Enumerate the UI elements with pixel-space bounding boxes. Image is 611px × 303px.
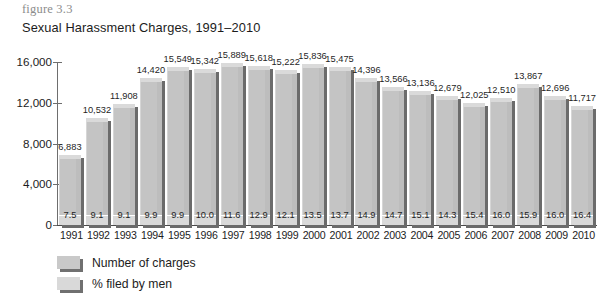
- x-tick-label: 2000: [301, 227, 328, 243]
- bar-charges[interactable]: 15.4: [463, 103, 485, 226]
- x-tick-label: 2007: [489, 227, 516, 243]
- legend-item[interactable]: Number of charges: [57, 253, 317, 272]
- x-tick-label: 1996: [193, 227, 220, 243]
- bar-slot: 11.615,889: [220, 62, 247, 225]
- chart-title: Sexual Harassment Charges, 1991–2010: [22, 20, 260, 35]
- x-tick-label: 1993: [112, 227, 139, 243]
- bar-column[interactable]: 13.715,475: [329, 67, 351, 225]
- bar-charges[interactable]: 9.1: [86, 118, 108, 225]
- bar-slot: 9.915,549: [166, 62, 193, 225]
- bar-highlight: [221, 63, 243, 67]
- bar-value-label: 11,908: [107, 92, 141, 101]
- plot-area: 7.56,8839.110,5329.111,9089.914,4209.915…: [57, 62, 597, 225]
- bar-charges[interactable]: 9.1: [113, 104, 135, 225]
- x-axis-line: [57, 225, 597, 226]
- bar-pct-label: 13.5: [302, 211, 324, 220]
- bar-slot: 14.312,679: [435, 62, 462, 225]
- bar-slot: 13.715,475: [328, 62, 355, 225]
- bar-pct-label: 15.9: [517, 211, 539, 220]
- bar-pct-label: 15.1: [409, 211, 431, 220]
- bar-column[interactable]: 14.914,396: [355, 78, 377, 225]
- bar-highlight: [382, 87, 404, 91]
- bar-pct-label: 11.6: [221, 211, 243, 220]
- x-tick-label: 2009: [543, 227, 570, 243]
- bar-charges[interactable]: 9.9: [167, 67, 189, 225]
- bar-column[interactable]: 14.312,679: [436, 96, 458, 225]
- bar-column[interactable]: 10.015,342: [194, 69, 216, 225]
- bar-pct-label: 7.5: [59, 211, 81, 220]
- bar-slot: 7.56,883: [58, 62, 85, 225]
- x-tick-label: 1999: [274, 227, 301, 243]
- bar-charges[interactable]: 12.1: [275, 70, 297, 225]
- bar-column[interactable]: 15.913,867: [517, 84, 539, 225]
- bar-charges[interactable]: 15.9: [517, 84, 539, 225]
- bar-slot: 12.915,618: [247, 62, 274, 225]
- bar-highlight: [409, 91, 431, 95]
- bar-highlight: [248, 66, 270, 70]
- bar-highlight: [463, 103, 485, 107]
- bar-charges[interactable]: 15.1: [409, 91, 431, 225]
- bar-column[interactable]: 14.713,566: [382, 87, 404, 225]
- bar-pct-label: 14.9: [355, 211, 377, 220]
- bar-value-label: 12,510: [484, 86, 518, 95]
- bar-charges[interactable]: 14.7: [382, 87, 404, 225]
- bar-highlight: [517, 84, 539, 88]
- bar-charges[interactable]: 16.0: [490, 98, 512, 225]
- bar-charges[interactable]: 10.0: [194, 69, 216, 225]
- bar-column[interactable]: 11.615,889: [221, 63, 243, 225]
- bar-pct-label: 12.9: [248, 211, 270, 220]
- bar-pct-label: 10.0: [194, 211, 216, 220]
- bar-slot: 10.015,342: [193, 62, 220, 225]
- bar-column[interactable]: 16.012,696: [544, 96, 566, 225]
- x-tick-label: 2002: [354, 227, 381, 243]
- bar-pct-label: 9.1: [113, 211, 135, 220]
- legend-label: Number of charges: [92, 256, 196, 270]
- bar-pct-label: 14.3: [436, 211, 458, 220]
- bar-charges[interactable]: 9.9: [140, 78, 162, 225]
- bar-charges[interactable]: 13.5: [302, 64, 324, 225]
- bar-charges[interactable]: 16.4: [571, 106, 593, 225]
- bar-charges[interactable]: 11.6: [221, 63, 243, 225]
- bar-column[interactable]: 9.111,908: [113, 104, 135, 225]
- y-axis-labels: 16,00012,0008,0004,0000: [0, 55, 52, 230]
- bar-column[interactable]: 16.411,717: [571, 106, 593, 225]
- x-tick-label: 1997: [220, 227, 247, 243]
- bar-column[interactable]: 7.56,883: [59, 155, 81, 225]
- bar-charges[interactable]: 14.9: [355, 78, 377, 225]
- bar-charges[interactable]: 13.7: [329, 67, 351, 225]
- bar-pct-label: 14.7: [382, 211, 404, 220]
- bar-pct-label: 12.1: [275, 211, 297, 220]
- bar-column[interactable]: 9.914,420: [140, 78, 162, 225]
- bar-column[interactable]: 16.012,510: [490, 98, 512, 225]
- x-axis-labels: 1991199219931994199519961997199819992000…: [58, 227, 597, 243]
- x-tick-label: 1992: [85, 227, 112, 243]
- bar-highlight: [571, 106, 593, 110]
- legend-swatch: [57, 256, 83, 270]
- bar-slot: 16.012,696: [543, 62, 570, 225]
- bar-charges[interactable]: 14.3: [436, 96, 458, 225]
- x-tick-label: 1998: [247, 227, 274, 243]
- bar-value-label: 13,867: [511, 72, 545, 81]
- bar-column[interactable]: 9.915,549: [167, 67, 189, 225]
- bar-column[interactable]: 13.515,836: [302, 64, 324, 225]
- bar-column[interactable]: 9.110,532: [86, 118, 108, 225]
- bar-slot: 16.411,717: [570, 62, 597, 225]
- bar-slot: 9.111,908: [112, 62, 139, 225]
- bar-charges[interactable]: 12.9: [248, 66, 270, 225]
- bar-column[interactable]: 12.115,222: [275, 70, 297, 225]
- figure-label: figure 3.3: [22, 2, 73, 17]
- bar-charges[interactable]: 7.5: [59, 155, 81, 225]
- y-tick-label: 4,000: [23, 177, 52, 190]
- bar-column[interactable]: 12.915,618: [248, 66, 270, 225]
- bar-pct-label: 9.9: [167, 211, 189, 220]
- bar-column[interactable]: 15.412,025: [463, 103, 485, 226]
- bar-highlight: [436, 96, 458, 100]
- bar-column[interactable]: 15.113,136: [409, 91, 431, 225]
- x-tick-label: 2004: [408, 227, 435, 243]
- bar-highlight: [355, 78, 377, 82]
- bar-charges[interactable]: 16.0: [544, 96, 566, 225]
- legend-item[interactable]: % filed by men: [57, 274, 317, 293]
- bar-pct-label: 16.0: [490, 211, 512, 220]
- bar-pct-label: 13.7: [329, 211, 351, 220]
- x-tick-label: 2001: [328, 227, 355, 243]
